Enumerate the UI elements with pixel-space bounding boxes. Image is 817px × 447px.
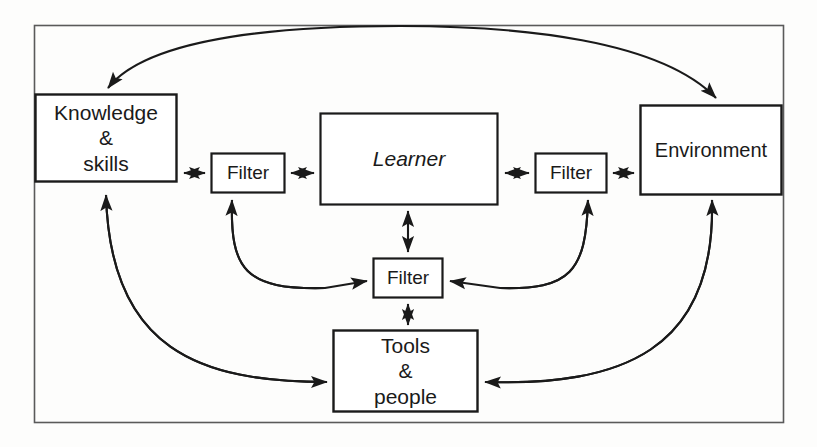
node-learner-box[interactable] bbox=[321, 114, 498, 205]
node-filter-right-box[interactable] bbox=[536, 154, 607, 193]
diagram-canvas: Knowledge & skills Filter Learner Filter… bbox=[0, 0, 817, 447]
connector-curve-environment-filtercenter bbox=[450, 200, 588, 288]
connector-curve-toolspeople-filterleft bbox=[232, 200, 325, 288]
connector-curve-knowledge-toolspeople bbox=[106, 195, 327, 382]
connector-curve-toolspeople-filterright bbox=[500, 200, 588, 288]
connector-arc-knowledge-environment bbox=[108, 26, 716, 98]
connector-curve-toolspeople-environment bbox=[485, 200, 712, 382]
node-filter-center-box[interactable] bbox=[374, 259, 443, 298]
node-environment-box[interactable] bbox=[641, 106, 782, 195]
node-filter-left-box[interactable] bbox=[212, 154, 285, 193]
diagram-graphics bbox=[0, 0, 817, 447]
connector-curve-environment-toolspeople bbox=[485, 200, 712, 382]
node-knowledge-skills-box[interactable] bbox=[36, 95, 177, 182]
connector-curve-toolspeople-filtercenter-left bbox=[232, 200, 367, 288]
node-tools-people-box[interactable] bbox=[334, 331, 478, 412]
connector-curve-toolspeople-knowledge bbox=[106, 195, 327, 382]
